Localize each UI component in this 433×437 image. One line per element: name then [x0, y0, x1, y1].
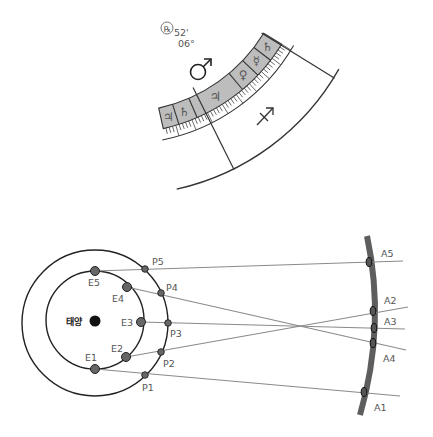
apparent-dot-3 — [371, 324, 377, 333]
earth-label-5: E5 — [88, 277, 100, 288]
earth-label-4: E4 — [112, 293, 124, 304]
sight-line-4 — [127, 287, 406, 350]
planet-label-5: P5 — [152, 256, 164, 267]
degrees-label: 06° — [178, 38, 195, 49]
apparent-label-4: A4 — [383, 353, 396, 364]
sight-line-1 — [95, 369, 400, 396]
retrograde-label: ℞ 52' 06° — [161, 22, 195, 49]
apparent-dot-5 — [366, 258, 372, 267]
saturn-icon: ♄ — [262, 40, 273, 54]
planet-label-2: P2 — [163, 358, 175, 369]
earth-dot-3 — [137, 318, 146, 327]
apparent-dot-4 — [370, 339, 376, 348]
saturn-icon: ♄ — [179, 105, 190, 119]
zodiac-arc-figure: ♃♄♃♀☿♄ — [159, 33, 339, 189]
venus-icon: ♀ — [239, 68, 248, 82]
mars-icon — [191, 65, 206, 80]
diagram-canvas: ♃♄♃♀☿♄ ℞ 52' 06° 태양 — [0, 0, 433, 437]
planet-label-3: P3 — [170, 328, 182, 339]
planet-dot-3 — [165, 320, 172, 327]
retrograde-motion-figure: 태양 E1 E2 E3 E4 E5 — [22, 236, 408, 415]
planet-label-4: P4 — [166, 282, 178, 293]
apparent-label-5: A5 — [381, 248, 394, 259]
planet-dot-5 — [142, 266, 149, 273]
planet-dot-1 — [142, 372, 149, 379]
planet-dot-2 — [158, 349, 165, 356]
jupiter-icon: ♃ — [163, 110, 174, 124]
earth-label-3: E3 — [121, 317, 133, 328]
earth-label-2: E2 — [111, 343, 123, 354]
earth-dot-4 — [123, 283, 132, 292]
sign-outer-arc — [177, 69, 339, 189]
minutes-label: 52' — [174, 27, 189, 38]
sun-label: 태양 — [66, 316, 83, 327]
mercury-icon: ☿ — [253, 54, 260, 68]
jupiter-icon: ♃ — [209, 89, 221, 104]
mars-symbol — [191, 59, 212, 80]
sagittarius-icon — [257, 108, 273, 125]
sun-dot — [90, 316, 101, 327]
planet-label-1: P1 — [142, 382, 154, 393]
apparent-dot-1 — [361, 388, 367, 397]
apparent-label-1: A1 — [374, 402, 387, 413]
planet-dot-4 — [158, 290, 165, 297]
earth-dot-5 — [91, 267, 100, 276]
sight-line-2 — [126, 307, 408, 357]
sagittarius-symbol — [257, 108, 273, 125]
earth-label-1: E1 — [85, 352, 97, 363]
earth-dot-1 — [91, 365, 100, 374]
retrograde-icon: ℞ — [164, 25, 171, 34]
apparent-label-3: A3 — [384, 316, 397, 327]
apparent-dot-2 — [370, 307, 376, 316]
apparent-label-2: A2 — [384, 295, 397, 306]
